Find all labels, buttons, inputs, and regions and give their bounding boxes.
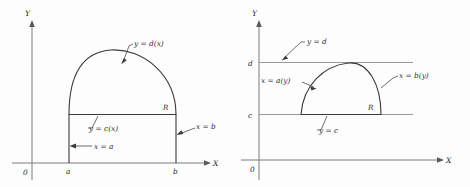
leader-right-curve-right bbox=[381, 76, 398, 88]
upper-curve-label-left: y = d(x) bbox=[133, 39, 164, 48]
upper-bound-label-right: y = d bbox=[306, 37, 327, 46]
left-curve-label-right: x = a(y) bbox=[261, 76, 291, 85]
left-curve-a-of-y bbox=[301, 63, 348, 115]
lower-curve-label-left: y = c(x) bbox=[88, 124, 118, 133]
y-axis-label-left: Y bbox=[25, 9, 31, 18]
leader-head-left-boundary bbox=[70, 144, 77, 149]
x-axis-label-left: X bbox=[212, 159, 219, 168]
panel-left-vertical-slices: Y X 0 a b R y = d(x) y = c(x) x = a bbox=[0, 0, 235, 187]
leader-head-upper-bound-right bbox=[282, 56, 289, 61]
origin-label-left: 0 bbox=[23, 168, 28, 177]
x-axis-arrowhead-left bbox=[204, 160, 211, 166]
right-curve-b-of-y bbox=[348, 63, 381, 115]
y-tick-label-c: c bbox=[248, 111, 252, 120]
right-boundary-label: x = b bbox=[196, 122, 216, 131]
upper-curve-d-of-x bbox=[69, 50, 176, 115]
panel-right-horizontal-slices: Y X 0 d c R y = d x = a(y) x = b(y) bbox=[235, 0, 470, 187]
left-boundary-label: x = a bbox=[94, 142, 113, 151]
y-axis-label-right: Y bbox=[252, 9, 258, 18]
x-axis-label-right: X bbox=[445, 156, 452, 165]
lower-bound-label-right: y = c bbox=[318, 126, 338, 135]
right-curve-label-right: x = b(y) bbox=[399, 71, 429, 80]
region-label-right: R bbox=[367, 103, 374, 112]
leader-head-right-boundary bbox=[177, 130, 184, 135]
two-panel-region-diagram: Y X 0 a b R y = d(x) y = c(x) x = a bbox=[0, 0, 470, 187]
y-axis-arrowhead-right bbox=[256, 20, 262, 27]
y-axis-arrowhead-left bbox=[29, 20, 35, 27]
region-label-left: R bbox=[162, 103, 169, 112]
leader-head-upper-curve-left bbox=[121, 58, 127, 65]
leader-upper-bound-right bbox=[284, 42, 305, 58]
x-tick-label-a: a bbox=[66, 167, 70, 176]
x-axis-arrowhead-right bbox=[437, 157, 444, 163]
y-tick-label-d: d bbox=[248, 59, 253, 68]
x-tick-label-b: b bbox=[173, 167, 178, 176]
origin-label-right: 0 bbox=[250, 165, 255, 174]
